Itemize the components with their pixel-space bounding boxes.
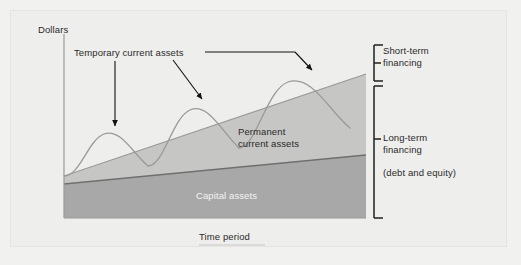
debt-and-equity-label: (debt and equity) <box>383 167 456 179</box>
short-term-financing-label: Short-term financing <box>383 45 429 68</box>
short-term-financing-bracket <box>374 45 383 81</box>
y-axis-label: Dollars <box>38 24 68 36</box>
figure-container: Dollars Time period Temporary current as… <box>0 0 521 265</box>
arrow-to-hump-2 <box>173 60 202 99</box>
permanent-current-assets-label: Permanent current assets <box>238 126 299 149</box>
x-axis-label: Time period <box>199 231 250 243</box>
temporary-current-assets-label: Temporary current assets <box>74 47 184 59</box>
arrow-to-hump-3 <box>295 52 312 70</box>
long-term-financing-bracket <box>374 86 383 218</box>
capital-assets-label: Capital assets <box>196 190 257 202</box>
long-term-financing-label: Long-term financing <box>383 132 427 155</box>
